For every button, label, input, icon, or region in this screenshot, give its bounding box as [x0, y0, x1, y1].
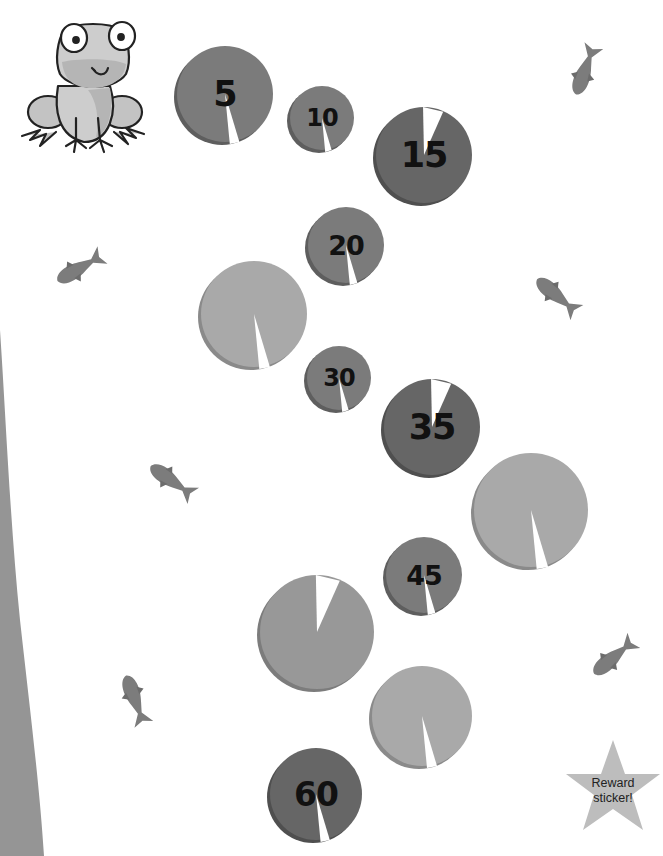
lily-pad[interactable]: 5: [177, 46, 273, 142]
lily-pad[interactable]: 45: [386, 537, 462, 613]
lily-pad-shape: [260, 575, 374, 689]
lily-pad[interactable]: [372, 666, 472, 766]
lily-pad[interactable]: 10: [290, 86, 354, 150]
lily-pad[interactable]: 35: [384, 379, 480, 475]
pad-number: 45: [386, 537, 462, 613]
lily-pad[interactable]: 60: [270, 748, 362, 840]
reward-label-line2: sticker!: [593, 791, 633, 806]
lily-pad[interactable]: 30: [307, 346, 371, 410]
frog-icon: [18, 0, 168, 160]
fish-icon: [112, 667, 159, 733]
fish-icon: [582, 627, 646, 687]
lily-pad-shape: [372, 666, 472, 766]
lily-pad[interactable]: 20: [308, 207, 384, 283]
lily-pad-shape: [201, 261, 307, 367]
fish-icon: [139, 452, 204, 509]
pad-number: 10: [290, 86, 354, 150]
pad-number: 15: [376, 107, 472, 203]
reward-label-line1: Reward: [591, 776, 634, 791]
pad-number: 60: [270, 748, 362, 840]
reward-sticker-star[interactable]: Reward sticker!: [565, 738, 661, 834]
lily-pad[interactable]: [260, 575, 374, 689]
lily-pad[interactable]: [474, 453, 588, 567]
pad-number: 20: [308, 207, 384, 283]
pad-number: 5: [177, 46, 273, 142]
lily-pad[interactable]: 15: [376, 107, 472, 203]
pad-number: 35: [384, 379, 480, 475]
fish-icon: [525, 266, 589, 326]
lily-pad-shape: [474, 453, 588, 567]
pad-number: 30: [307, 346, 371, 410]
lily-pad[interactable]: [201, 261, 307, 367]
fish-icon: [562, 37, 609, 103]
